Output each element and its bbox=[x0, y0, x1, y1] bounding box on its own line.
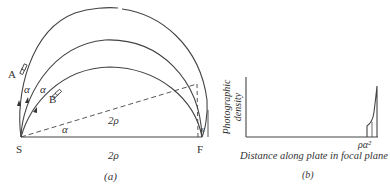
y-axis-label-line2: density bbox=[232, 92, 243, 121]
y-axis-label-line1: Photographic bbox=[221, 79, 232, 136]
angle-label-base: α bbox=[62, 123, 68, 135]
diagram-canvas: A B α α α 2ρ 2ρ S F s (a) Photographic d… bbox=[0, 0, 390, 189]
beam-label-a: A bbox=[8, 68, 16, 80]
panel-b bbox=[246, 77, 378, 137]
chord-length-label: 2ρ bbox=[108, 114, 119, 126]
x-axis-label: Distance along plate in focal plane bbox=[239, 150, 388, 161]
dashed-chord bbox=[21, 84, 197, 137]
outer-trajectory-arc bbox=[20, 8, 118, 137]
tick-label-rho-alpha-squared: ρα² bbox=[357, 139, 372, 150]
spread-label: s bbox=[201, 125, 204, 134]
baseline-length-label: 2ρ bbox=[108, 149, 119, 161]
angle-label-outer: α bbox=[24, 83, 30, 95]
caption-a: (a) bbox=[104, 170, 117, 183]
beam-label-b: B bbox=[49, 93, 56, 105]
arrow-icon bbox=[25, 97, 29, 103]
caption-b: (b) bbox=[302, 169, 314, 181]
angle-label-inner: α bbox=[40, 83, 46, 95]
focus-label: F bbox=[197, 143, 203, 155]
source-label: S bbox=[16, 143, 22, 155]
